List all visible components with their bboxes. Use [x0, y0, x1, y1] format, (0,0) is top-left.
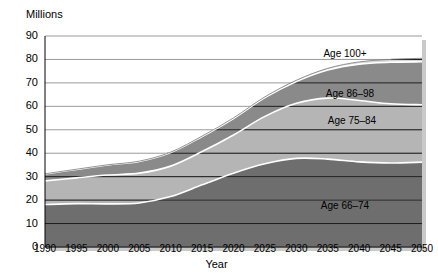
y-axis-tick-label: 70 — [4, 76, 38, 88]
x-axis-tick-label: 2035 — [311, 243, 345, 254]
x-axis-tick-label: 2050 — [405, 243, 438, 254]
series-label: Age 86–98 — [326, 88, 374, 99]
x-axis-tick-label: 2025 — [248, 243, 282, 254]
x-axis-tick-label: 2010 — [154, 243, 188, 254]
y-axis-tick-label: 90 — [4, 29, 38, 41]
x-axis-tick-label: 2015 — [185, 243, 219, 254]
series-label: Age 75–84 — [328, 115, 376, 126]
series-label: Age 66–74 — [321, 200, 369, 211]
x-axis-tick-label: 1990 — [28, 243, 62, 254]
y-axis-tick-label: 50 — [4, 123, 38, 135]
y-axis-tick-label: 30 — [4, 170, 38, 182]
y-axis-tick-label: 80 — [4, 52, 38, 64]
x-axis-tick-label: 2020 — [217, 243, 251, 254]
x-axis-title: Year — [0, 258, 433, 270]
series-label: Age 100+ — [323, 48, 366, 59]
x-axis-tick-label: 2000 — [91, 243, 125, 254]
x-axis-tick-label: 1995 — [59, 243, 93, 254]
x-axis-tick-label: 2005 — [122, 243, 156, 254]
y-axis-tick-label: 40 — [4, 146, 38, 158]
x-axis-tick-label: 2030 — [279, 243, 313, 254]
x-axis-tick-label: 2040 — [342, 243, 376, 254]
y-axis-tick-label: 10 — [4, 217, 38, 229]
x-axis-tick-label: 2045 — [374, 243, 408, 254]
y-axis-tick-label: 20 — [4, 193, 38, 205]
y-axis-tick-label: 60 — [4, 99, 38, 111]
